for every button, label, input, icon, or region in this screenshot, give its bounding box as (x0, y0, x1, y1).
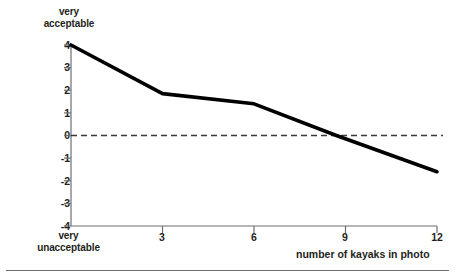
kayak-acceptability-chart: very acceptable very unacceptable 4 3 2 … (0, 0, 455, 278)
page-bottom-rule (6, 270, 449, 271)
data-series-line (71, 45, 437, 172)
x-axis-ticks (163, 226, 438, 233)
y-axis-ticks (64, 45, 71, 226)
chart-plot-area (0, 0, 455, 278)
